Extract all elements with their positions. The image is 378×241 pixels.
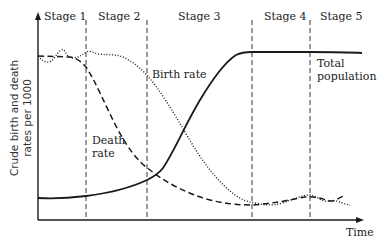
death-rate-label-line2: rate [92,147,115,160]
total-population-label-line1: Total [317,57,345,70]
y-axis-label-line1: Crude birth and death [8,60,20,176]
x-axis-label: Time [346,226,374,239]
total-population-label-line2: population [317,70,377,83]
y-axis-label-line2: rates per 1000 [21,79,33,157]
birth-rate-label: Birth rate [152,68,207,81]
stage-2-label: Stage 2 [98,10,141,23]
y-axis-arrow-icon [35,12,41,20]
stage-3-label: Stage 3 [178,10,221,23]
stage-5-label: Stage 5 [320,10,363,23]
stage-1-label: Stage 1 [44,10,87,23]
demographic-transition-diagram: Stage 1 Stage 2 Stage 3 Stage 4 Stage 5 … [0,0,378,241]
stage-4-label: Stage 4 [264,10,307,23]
death-rate-label-line1: Death [92,134,125,147]
x-axis-arrow-icon [356,217,364,223]
y-axis-label: Crude birth and death rates per 1000 [8,60,33,176]
